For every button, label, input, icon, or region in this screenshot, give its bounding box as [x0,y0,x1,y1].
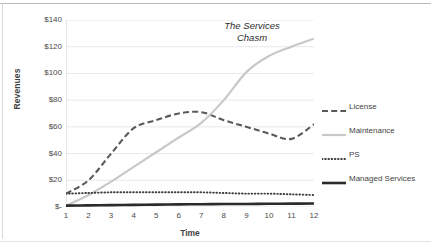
legend-swatch-icon [322,174,346,184]
series-line-ps [66,192,314,195]
x-axis-tick-labels: 123456789101112 [66,212,314,226]
legend-item-maintenance[interactable]: Maintenance [322,119,430,143]
chasm-annotation-line1: The Services [196,20,308,32]
legend-item-label: License [349,103,377,111]
x-tick-label: 3 [101,212,121,220]
chasm-annotation: The Services Chasm [196,20,308,44]
y-tick-label: $100 [28,69,62,77]
x-tick-label: 2 [79,212,99,220]
y-tick-label: $40 [28,150,62,158]
x-tick-label: 1 [56,212,76,220]
y-tick-label: $80 [28,96,62,104]
y-axis-tick-labels: $-$20$40$60$80$100$120$140 [26,0,62,243]
x-tick-label: 4 [124,212,144,220]
plot-area [66,20,314,207]
chart-legend: LicenseMaintenancePSManaged Services [322,95,430,191]
legend-item-license[interactable]: License [322,95,430,119]
x-tick-label: 9 [236,212,256,220]
x-tick-label: 7 [191,212,211,220]
series-line-managed-services [66,204,314,206]
legend-item-ps[interactable]: PS [322,143,430,167]
x-tick-label: 11 [281,212,301,220]
chart-figure: Revenues Time $-$20$40$60$80$100$120$140… [0,0,431,243]
chasm-annotation-line2: Chasm [196,32,308,44]
y-tick-label: $120 [28,43,62,51]
legend-item-label: PS [349,151,360,159]
y-tick-label: $- [28,203,62,211]
figure-bottom-rule [0,241,431,242]
plot-svg [66,20,314,207]
legend-item-label: Managed Services [349,175,415,183]
legend-item-managed-services[interactable]: Managed Services [322,167,430,191]
legend-swatch-icon [322,102,346,112]
x-tick-label: 10 [259,212,279,220]
x-tick-label: 8 [214,212,234,220]
legend-item-label: Maintenance [349,127,395,135]
y-axis-title: Revenues [12,49,22,129]
y-tick-label: $60 [28,123,62,131]
y-tick-label: $140 [28,16,62,24]
x-tick-label: 5 [146,212,166,220]
y-tick-label: $20 [28,176,62,184]
figure-top-rule [0,3,431,4]
figure-left-rule [2,3,3,239]
x-tick-label: 6 [169,212,189,220]
legend-swatch-icon [322,126,346,136]
x-axis-title: Time [66,228,314,238]
x-tick-label: 12 [304,212,324,220]
legend-swatch-icon [322,150,346,160]
series-line-license [66,112,314,194]
